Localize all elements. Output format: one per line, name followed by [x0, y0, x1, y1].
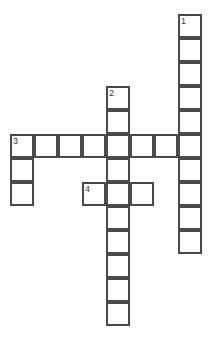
crossword-cell[interactable]: [178, 62, 202, 86]
crossword-cell[interactable]: [58, 134, 82, 158]
cell-number: 2: [109, 88, 114, 98]
crossword-cell[interactable]: [178, 110, 202, 134]
crossword-cell[interactable]: [106, 230, 130, 254]
crossword-cell[interactable]: [106, 302, 130, 326]
crossword-cell[interactable]: [130, 134, 154, 158]
crossword-cell[interactable]: 4: [82, 182, 106, 206]
crossword-cell[interactable]: [130, 182, 154, 206]
crossword-cell[interactable]: [178, 86, 202, 110]
crossword-cell[interactable]: 2: [106, 86, 130, 110]
crossword-cell[interactable]: [10, 182, 34, 206]
crossword-cell[interactable]: [106, 206, 130, 230]
crossword-cell[interactable]: [178, 206, 202, 230]
cell-number: 4: [85, 184, 90, 194]
crossword-cell[interactable]: [82, 134, 106, 158]
cell-number: 3: [13, 136, 18, 146]
crossword-cell[interactable]: [10, 158, 34, 182]
crossword-cell[interactable]: [178, 38, 202, 62]
crossword-grid: 1234: [0, 0, 213, 340]
crossword-cell[interactable]: [178, 134, 202, 158]
crossword-cell[interactable]: 1: [178, 14, 202, 38]
crossword-cell[interactable]: [106, 158, 130, 182]
crossword-cell[interactable]: [34, 134, 58, 158]
crossword-cell[interactable]: [106, 278, 130, 302]
crossword-cell[interactable]: [178, 230, 202, 254]
crossword-cell[interactable]: [178, 182, 202, 206]
crossword-cell[interactable]: [106, 182, 130, 206]
crossword-cell[interactable]: [154, 134, 178, 158]
crossword-cell[interactable]: [106, 110, 130, 134]
crossword-cell[interactable]: 3: [10, 134, 34, 158]
crossword-cell[interactable]: [106, 254, 130, 278]
crossword-cell[interactable]: [106, 134, 130, 158]
cell-number: 1: [181, 16, 186, 26]
crossword-cell[interactable]: [178, 158, 202, 182]
